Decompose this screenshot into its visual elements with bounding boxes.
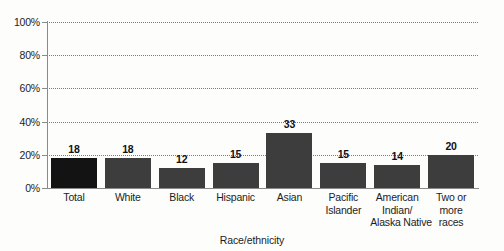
bar-value-label: 15 [338, 148, 349, 160]
y-axis-tick-mark [42, 188, 47, 189]
category-label-line: Total [47, 191, 101, 204]
bar-group: 14 [370, 22, 424, 188]
category-label-line: Pacific [316, 191, 370, 204]
bar-value-label: 15 [230, 148, 241, 160]
bar-value-label: 14 [392, 150, 403, 162]
bar-value-label: 20 [445, 140, 456, 152]
bar-value-label: 18 [68, 143, 79, 155]
x-axis-category-label: Total [47, 191, 101, 204]
category-label-line: Black [155, 191, 209, 204]
bar-group: 20 [424, 22, 478, 188]
x-axis-line [47, 188, 479, 189]
bar-chart: 0%20%40%60%80%100% 1818121533151420 Tota… [0, 0, 504, 251]
bar[interactable] [105, 158, 151, 188]
bar-value-label: 33 [284, 118, 295, 130]
y-axis-tick-label: 60% [0, 82, 40, 94]
category-label-line: Asian [263, 191, 317, 204]
category-label-line: Hispanic [209, 191, 263, 204]
y-axis-tick-label: 80% [0, 49, 40, 61]
x-axis-category-label: AmericanIndian/Alaska Native [370, 191, 424, 229]
y-axis-tick-label: 0% [0, 182, 40, 194]
bar[interactable] [320, 163, 366, 188]
bar[interactable] [159, 168, 205, 188]
bar[interactable] [428, 155, 474, 188]
category-label-line: Two or [424, 191, 478, 204]
category-label-line: American [370, 191, 424, 204]
bar[interactable] [51, 158, 97, 188]
x-axis-category-label: Asian [263, 191, 317, 204]
y-axis-tick-label: 40% [0, 116, 40, 128]
x-axis-category-label: Black [155, 191, 209, 204]
bar-group: 12 [155, 22, 209, 188]
y-axis-tick-label: 20% [0, 149, 40, 161]
y-axis-labels: 0%20%40%60%80%100% [0, 0, 40, 251]
category-label-line: Islander [316, 204, 370, 217]
bar-group: 18 [101, 22, 155, 188]
bars-layer: 1818121533151420 [47, 22, 478, 188]
bar-group: 15 [316, 22, 370, 188]
category-label-line: races [424, 216, 478, 229]
x-axis-category-label: PacificIslander [316, 191, 370, 216]
bar[interactable] [374, 165, 420, 188]
x-axis-title: Race/ethnicity [0, 234, 504, 246]
bar-group: 33 [263, 22, 317, 188]
x-axis-category-label: Two ormoreraces [424, 191, 478, 229]
category-label-line: more [424, 204, 478, 217]
bar-value-label: 12 [176, 153, 187, 165]
bar-group: 15 [209, 22, 263, 188]
category-label-line: White [101, 191, 155, 204]
bar[interactable] [266, 133, 312, 188]
x-axis-category-label: Hispanic [209, 191, 263, 204]
y-axis-tick-label: 100% [0, 16, 40, 28]
bar-group: 18 [47, 22, 101, 188]
x-axis-category-label: White [101, 191, 155, 204]
bar[interactable] [213, 163, 259, 188]
category-label-line: Alaska Native [370, 216, 424, 229]
bar-value-label: 18 [122, 143, 133, 155]
category-label-line: Indian/ [370, 204, 424, 217]
